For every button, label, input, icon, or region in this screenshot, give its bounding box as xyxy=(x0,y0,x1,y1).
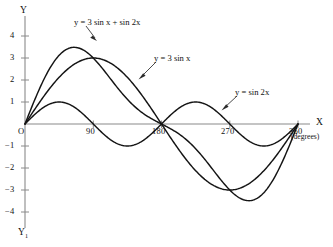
y-axis-bottom-label: Y1 xyxy=(18,228,28,239)
trig-function-chart: Y X (degrees) Y1 O 4 3 2 1 −1 −2 −3 −4 9… xyxy=(0,0,333,247)
x-axis-label: X xyxy=(316,118,323,128)
annotation-leaders xyxy=(86,26,237,111)
y-tick-label-1: 1 xyxy=(10,97,14,106)
origin-label: O xyxy=(18,127,24,136)
y-tick-label-neg3: −3 xyxy=(5,185,14,194)
plot-area xyxy=(0,0,333,247)
y-tick-label-neg2: −2 xyxy=(5,163,14,172)
x-tick-label-180: 180 xyxy=(152,127,165,136)
arrow-head-3sinx xyxy=(139,73,146,79)
x-tick-label-90: 90 xyxy=(86,127,95,136)
curve-label-sum: y = 3 sin x + sin 2x xyxy=(74,18,140,27)
y-tick-label-neg1: −1 xyxy=(5,141,14,150)
y-tick-label-4: 4 xyxy=(10,31,14,40)
y-tick-label-2: 2 xyxy=(10,75,14,84)
y-bottom-letter: Y xyxy=(18,227,25,237)
y-tick-label-3: 3 xyxy=(10,53,14,62)
x-tick-label-270: 270 xyxy=(221,127,234,136)
y-tick-label-neg4: −4 xyxy=(5,207,14,216)
axes-group xyxy=(25,16,310,228)
y-axis-label: Y xyxy=(20,6,27,16)
curve-label-sin2x: y = sin 2x xyxy=(235,88,269,97)
leader-line-sum xyxy=(86,26,95,38)
curve-label-3sinx: y = 3 sin x xyxy=(154,54,190,63)
y-bottom-subscript: 1 xyxy=(25,233,28,239)
x-tick-label-360: 360 xyxy=(289,127,302,136)
